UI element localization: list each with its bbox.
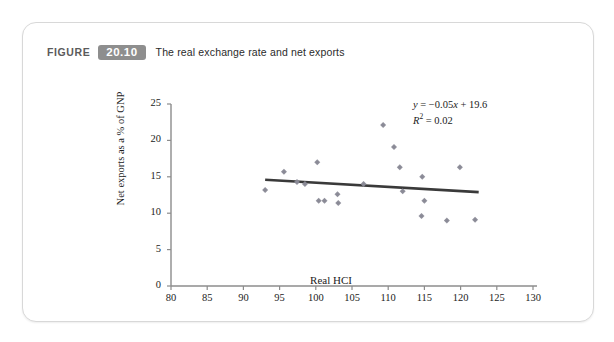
x-tick-label: 100 <box>303 292 329 303</box>
data-point <box>314 159 320 165</box>
data-point <box>457 164 463 170</box>
data-point <box>444 217 450 223</box>
y-tick-label: 25 <box>135 97 161 108</box>
x-tick-label: 110 <box>375 292 401 303</box>
data-point <box>419 174 425 180</box>
x-tick-label: 115 <box>411 292 437 303</box>
data-point <box>281 169 287 175</box>
data-point <box>397 164 403 170</box>
y-tick-label: 10 <box>135 206 161 217</box>
data-point <box>419 213 425 219</box>
y-tick-label: 15 <box>135 170 161 181</box>
data-point <box>400 188 406 194</box>
figure-card: FIGURE 20.10 The real exchange rate and … <box>22 22 594 322</box>
scatter-plot-svg <box>106 69 556 299</box>
data-point <box>335 191 341 197</box>
figure-header: FIGURE 20.10 The real exchange rate and … <box>47 43 345 61</box>
x-tick-label: 130 <box>520 292 546 303</box>
x-tick-label: 125 <box>484 292 510 303</box>
x-tick-label: 85 <box>194 292 220 303</box>
y-tick-label: 0 <box>135 279 161 290</box>
y-tick-label: 20 <box>135 133 161 144</box>
figure-number-badge: 20.10 <box>98 45 145 60</box>
x-tick-label: 80 <box>158 292 184 303</box>
screenshot-root: FIGURE 20.10 The real exchange rate and … <box>0 0 614 342</box>
x-tick-label: 120 <box>448 292 474 303</box>
x-tick-label: 90 <box>230 292 256 303</box>
data-point <box>380 122 386 128</box>
figure-label: FIGURE <box>47 46 90 58</box>
figure-title: The real exchange rate and net exports <box>156 46 345 58</box>
data-point <box>472 217 478 223</box>
data-point <box>321 198 327 204</box>
x-tick-label: 95 <box>267 292 293 303</box>
data-point <box>262 187 268 193</box>
data-point <box>421 198 427 204</box>
data-point <box>335 200 341 206</box>
data-point <box>316 198 322 204</box>
data-point <box>294 179 300 185</box>
y-tick-label: 5 <box>135 243 161 254</box>
data-point <box>391 144 397 150</box>
chart-area: y = −0.05x + 19.6 R2 = 0.02 Net exports … <box>106 69 556 299</box>
x-tick-label: 105 <box>339 292 365 303</box>
